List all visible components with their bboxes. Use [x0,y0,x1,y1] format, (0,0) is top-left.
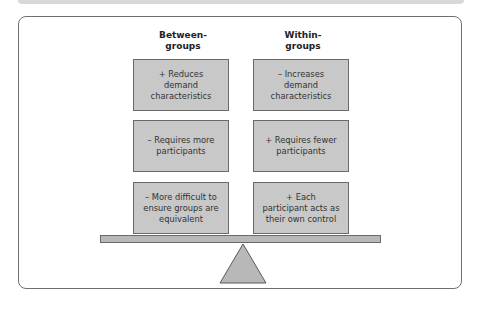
text-line: equivalent [143,214,218,225]
text-line: – Requires more [148,135,215,146]
text-line: their own control [263,214,340,225]
within-item-own-control: + Each participant acts as their own con… [253,182,349,234]
header-line: Within- [255,30,351,41]
between-item-demand: + Reduces demand characteristics [133,59,229,111]
text-line: – Increases [271,69,332,80]
text-line: + Each [263,192,340,203]
fulcrum-triangle-icon [219,243,267,284]
header-line: Between- [135,30,231,41]
text-line: participants [265,146,337,157]
within-item-demand: – Increases demand characteristics [253,59,349,111]
text-line: characteristics [271,91,332,102]
text-line: – More difficult to [143,192,218,203]
top-bar [18,0,464,4]
header-line: groups [255,41,351,52]
text-line: characteristics [151,91,212,102]
text-line: demand [271,80,332,91]
within-item-participants: + Requires fewer participants [253,120,349,172]
text-line: participants [148,146,215,157]
text-line: + Reduces [151,69,212,80]
header-line: groups [135,41,231,52]
text-line: demand [151,80,212,91]
between-item-equivalence: – More difficult to ensure groups are eq… [133,182,229,234]
text-line: ensure groups are [143,203,218,214]
balance-beam [100,235,381,243]
text-line: participant acts as [263,203,340,214]
header-within-groups: Within- groups [255,30,351,52]
between-item-participants: – Requires more participants [133,120,229,172]
header-between-groups: Between- groups [135,30,231,52]
text-line: + Requires fewer [265,135,337,146]
